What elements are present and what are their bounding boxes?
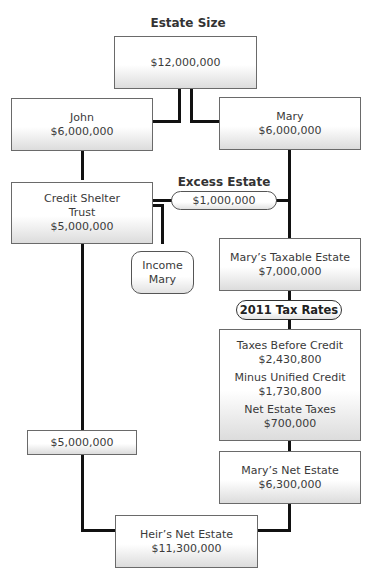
excess-estate-heading: Excess Estate — [170, 175, 278, 189]
john-amount: $6,000,000 — [51, 125, 114, 139]
connector-marynet-heir-v — [288, 502, 291, 532]
heir-net-estate-box: Heir’s Net Estate $11,300,000 — [115, 515, 258, 568]
income-mary-box: Income Mary — [131, 251, 194, 294]
john-name: John — [70, 111, 94, 125]
credit-shelter-trust-box: Credit Shelter Trust $5,000,000 — [11, 182, 153, 244]
unified-credit-label: Minus Unified Credit — [234, 371, 345, 385]
credit-shelter-amount: $5,000,000 — [51, 220, 114, 234]
heir-net-amount: $11,300,000 — [152, 542, 222, 556]
connector-marynet-heir-h — [256, 529, 291, 532]
income-line1: Income — [142, 259, 182, 273]
mary-box: Mary $6,000,000 — [219, 97, 361, 150]
income-line2: Mary — [149, 273, 176, 287]
mary-net-label: Mary’s Net Estate — [241, 464, 339, 478]
estate-size-box: $12,000,000 — [114, 36, 257, 89]
connector-excess-mary — [276, 199, 290, 202]
connector-estate-mary-v — [190, 88, 193, 122]
heir-net-label: Heir’s Net Estate — [140, 528, 233, 542]
mary-net-estate-box: Mary’s Net Estate $6,300,000 — [219, 451, 361, 504]
taxes-before-label: Taxes Before Credit — [237, 339, 343, 353]
tax-rates-pill: 2011 Tax Rates — [236, 300, 342, 320]
john-box: John $6,000,000 — [11, 98, 153, 151]
connector-estate-john-v — [178, 88, 181, 122]
connector-john-trust — [81, 150, 84, 180]
estate-size-amount: $12,000,000 — [151, 56, 221, 70]
tax-rates-label: 2011 Tax Rates — [240, 303, 338, 317]
trust-amount-box: $5,000,000 — [27, 430, 137, 455]
connector-mary-down — [288, 150, 291, 238]
trust-amount: $5,000,000 — [51, 436, 114, 450]
connector-estate-john-h — [152, 120, 181, 123]
credit-shelter-line1: Credit Shelter — [44, 192, 120, 206]
mary-name: Mary — [276, 110, 303, 124]
connector-trustamt-heir-h — [81, 529, 116, 532]
estate-size-heading: Estate Size — [128, 16, 248, 30]
mary-net-amount: $6,300,000 — [259, 478, 322, 492]
net-estate-taxes-label: Net Estate Taxes — [244, 403, 335, 417]
connector-trust-down — [81, 243, 84, 433]
mary-amount: $6,000,000 — [259, 124, 322, 138]
connector-trust-excess — [152, 199, 172, 202]
excess-estate-amount: $1,000,000 — [193, 194, 256, 207]
taxes-box: Taxes Before Credit $2,430,800 Minus Uni… — [219, 329, 361, 441]
connector-trustamt-heir-v — [81, 455, 84, 532]
excess-estate-pill: $1,000,000 — [171, 191, 277, 210]
taxes-before-amount: $2,430,800 — [259, 353, 322, 367]
unified-credit-amount: $1,730,800 — [259, 385, 322, 399]
mary-taxable-estate-box: Mary’s Taxable Estate $7,000,000 — [219, 238, 361, 291]
mary-taxable-amount: $7,000,000 — [259, 265, 322, 279]
net-estate-taxes-amount: $700,000 — [264, 417, 317, 431]
credit-shelter-line2: Trust — [69, 206, 96, 220]
mary-taxable-label: Mary’s Taxable Estate — [230, 251, 350, 265]
connector-trust-income-v — [161, 204, 164, 244]
connector-estate-mary-h — [190, 120, 220, 123]
